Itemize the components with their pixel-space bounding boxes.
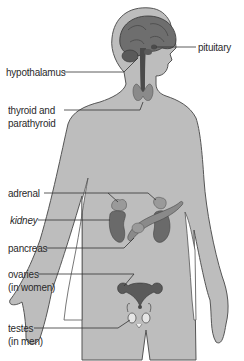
pancreas-head [132, 223, 144, 233]
label-ovaries-line2: (in women) [8, 281, 55, 293]
adrenal-gland-left [112, 199, 127, 211]
testis-right [142, 313, 150, 323]
hypothalamus-gland [144, 49, 152, 55]
label-thyroid-line2: parathyroid [8, 117, 56, 129]
label-pituitary: pituitary [198, 41, 231, 53]
body-illustration [0, 0, 244, 361]
label-thyroid-line1: thyroid and [8, 104, 55, 116]
label-kidney: kidney [10, 214, 38, 226]
label-adrenal: adrenal [8, 187, 40, 199]
endocrine-diagram: pituitary hypothalamus thyroid and parat… [0, 0, 244, 361]
cervix [138, 305, 142, 309]
label-testes-line2: (in men) [8, 335, 43, 347]
testis-left [128, 313, 136, 323]
label-hypothalamus: hypothalamus [6, 66, 65, 78]
label-ovaries-line1: ovaries [8, 268, 39, 280]
label-testes-line1: testes [8, 322, 33, 334]
label-pancreas: pancreas [8, 242, 47, 254]
